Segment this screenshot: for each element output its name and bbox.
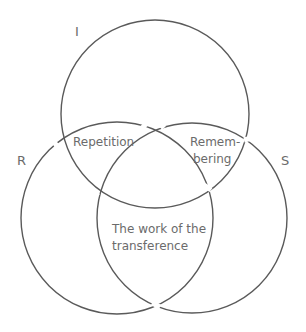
label-s: S <box>281 153 289 168</box>
borromean-diagram: I R S Repetition Remem- bering The work … <box>0 0 306 332</box>
circle-r <box>21 122 213 314</box>
label-r: R <box>17 153 26 168</box>
region-transference-2: transference <box>112 239 188 253</box>
region-remembering-1: Remem- <box>190 135 240 149</box>
circle-i <box>61 20 249 208</box>
crossing-gap <box>92 190 98 196</box>
circle-s <box>97 123 287 313</box>
crossing-gap <box>54 142 60 150</box>
label-i: I <box>75 24 79 39</box>
crossing-gap <box>244 138 252 140</box>
region-transference-1: The work of the <box>111 222 206 236</box>
crossing-gap <box>157 120 164 128</box>
region-repetition: Repetition <box>73 135 134 149</box>
crossing-gap <box>204 185 211 190</box>
region-remembering-2: bering <box>193 152 232 166</box>
